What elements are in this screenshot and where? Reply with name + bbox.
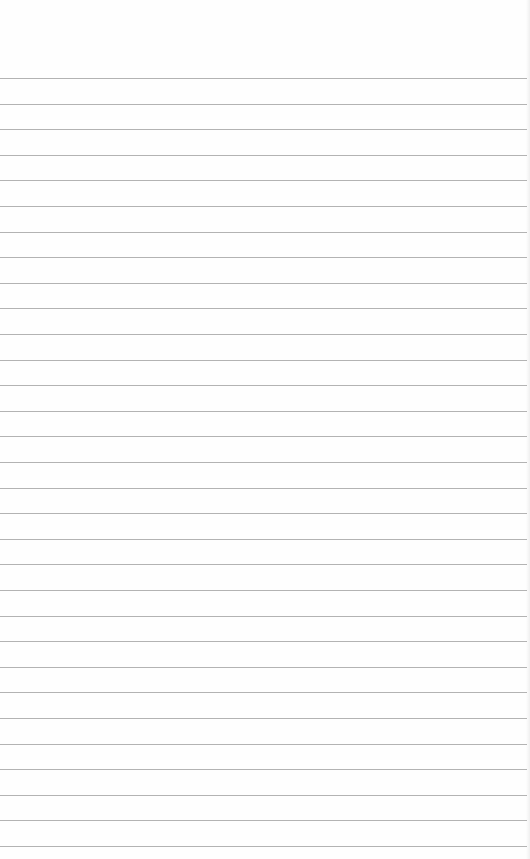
ruled-line bbox=[0, 667, 527, 668]
ruled-line bbox=[0, 795, 527, 796]
ruled-line bbox=[0, 590, 527, 591]
ruled-line bbox=[0, 718, 527, 719]
page-edge-shadow bbox=[526, 0, 530, 859]
ruled-line bbox=[0, 129, 527, 130]
ruled-line bbox=[0, 283, 527, 284]
ruled-line bbox=[0, 564, 527, 565]
ruled-line bbox=[0, 257, 527, 258]
ruled-line bbox=[0, 206, 527, 207]
ruled-line bbox=[0, 539, 527, 540]
ruled-line bbox=[0, 820, 527, 821]
notepad-sheet bbox=[0, 0, 530, 859]
ruled-line bbox=[0, 641, 527, 642]
ruled-line bbox=[0, 104, 527, 105]
ruled-line bbox=[0, 616, 527, 617]
ruled-line bbox=[0, 462, 527, 463]
ruled-line bbox=[0, 78, 527, 79]
ruled-line bbox=[0, 436, 527, 437]
ruled-line bbox=[0, 155, 527, 156]
ruled-line bbox=[0, 692, 527, 693]
ruled-line bbox=[0, 180, 527, 181]
ruled-line bbox=[0, 513, 527, 514]
ruled-line bbox=[0, 385, 527, 386]
ruled-line bbox=[0, 769, 527, 770]
ruled-line bbox=[0, 488, 527, 489]
ruled-line bbox=[0, 744, 527, 745]
ruled-line bbox=[0, 846, 527, 847]
ruled-line bbox=[0, 360, 527, 361]
header-bleed-through bbox=[4, 2, 524, 16]
ruled-line bbox=[0, 308, 527, 309]
ruled-line bbox=[0, 411, 527, 412]
ruled-line bbox=[0, 232, 527, 233]
ruled-line bbox=[0, 334, 527, 335]
